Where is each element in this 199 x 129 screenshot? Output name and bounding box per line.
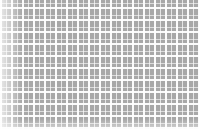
bottom-edge-highlight (0, 119, 199, 129)
woven-grid-texture (0, 0, 199, 129)
left-edge-highlight (0, 0, 22, 129)
